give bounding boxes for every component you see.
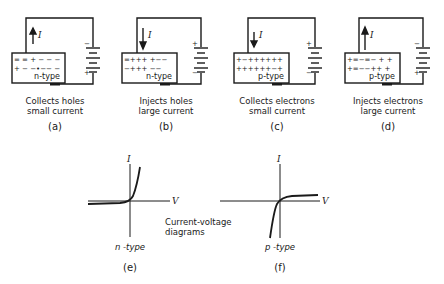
svg-text:=+++ +−−: =+++ +−− <box>124 56 167 64</box>
svg-text:I: I <box>276 154 281 164</box>
current-label-b: I <box>147 30 152 40</box>
graph-type-label-f: p -type <box>225 242 335 252</box>
svg-text:I: I <box>126 154 131 164</box>
material-label-a: n-type <box>0 72 102 82</box>
svg-text:−: − <box>414 40 420 48</box>
current-arrow-down-icon <box>140 28 146 49</box>
current-label-c: I <box>258 30 263 40</box>
material-label-d: p-type <box>327 72 437 82</box>
graphs-caption: Current-voltagediagrams <box>165 217 255 237</box>
svg-text:+−++++++: +−++++++ <box>236 56 283 64</box>
panel-label-d: (d) <box>373 121 403 132</box>
panel-label-a: (a) <box>40 121 70 132</box>
panel-label-e: (e) <box>115 262 145 273</box>
svg-text:V: V <box>322 196 330 206</box>
diagram-canvas: −+ +− +− −+ = = + − − −+ − −•−− − =+++ +… <box>0 0 444 284</box>
caption-d: Injects electronslarge current <box>333 96 443 116</box>
svg-text:+: + <box>192 40 198 48</box>
panel-label-c: (c) <box>262 121 292 132</box>
material-label-c: p-type <box>216 72 326 82</box>
svg-text:+=−=− + +: +=−=− + + <box>347 56 393 64</box>
svg-text:+: + <box>306 40 312 48</box>
svg-text:= = + − − −: = = + − − − <box>14 56 60 64</box>
graph-type-label-e: n -type <box>75 242 185 252</box>
current-label-d: I <box>369 30 374 40</box>
caption-c: Collects electronssmall current <box>222 96 332 116</box>
caption-b: Injects holeslarge current <box>111 96 221 116</box>
iv-graph-n-type <box>88 164 170 237</box>
material-label-b: n-type <box>104 72 214 82</box>
panel-label-b: (b) <box>151 121 181 132</box>
current-arrow-up-icon <box>30 28 36 44</box>
caption-a: Collects holessmall current <box>0 96 110 116</box>
svg-text:−: − <box>84 40 90 48</box>
svg-text:V: V <box>172 196 180 206</box>
panel-label-f: (f) <box>265 262 295 273</box>
current-label-a: I <box>37 30 42 40</box>
